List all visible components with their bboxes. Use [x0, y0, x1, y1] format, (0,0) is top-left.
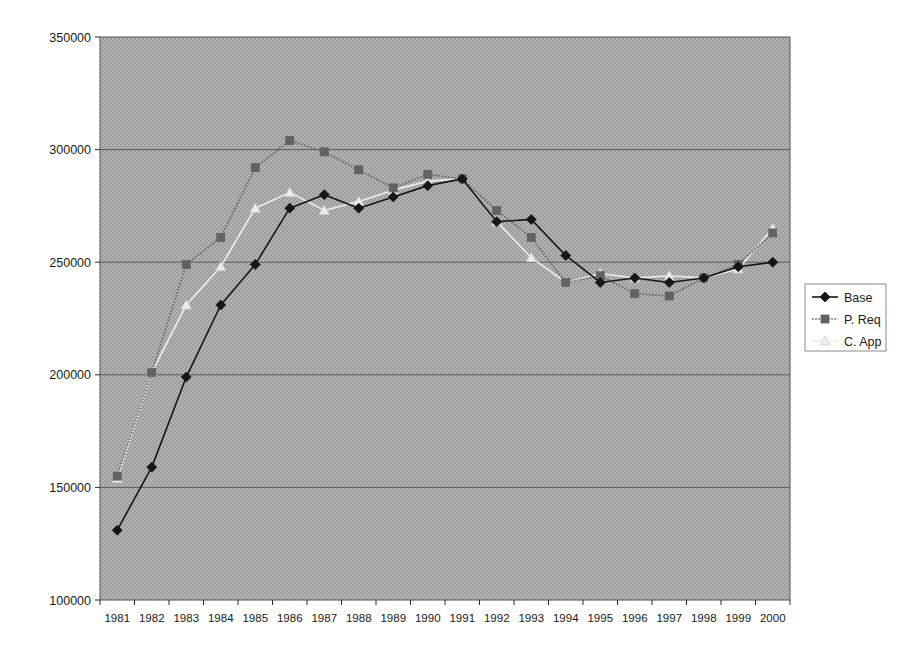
x-axis-tick-label: 1995	[587, 612, 613, 624]
x-axis-tick-label: 1990	[415, 612, 441, 624]
legend-label-p-req: P. Req	[844, 313, 881, 327]
y-axis-tick-label: 250000	[49, 256, 91, 270]
plot-background	[100, 37, 790, 600]
data-point-marker	[389, 184, 397, 192]
data-point-marker	[148, 369, 156, 377]
x-axis-tick-label: 1986	[277, 612, 303, 624]
x-axis-tick-label: 1987	[311, 612, 337, 624]
chart-container: 100000150000200000250000300000350000 198…	[0, 0, 912, 659]
x-axis-tick-label: 1985	[242, 612, 268, 624]
chart-legend: BaseP. ReqC. App	[805, 284, 886, 351]
data-point-marker	[631, 290, 639, 298]
x-axis-tick-label: 1994	[553, 612, 579, 624]
legend-label-c-app: C. App	[844, 335, 882, 349]
x-axis-tick-label: 1993	[518, 612, 544, 624]
data-point-marker	[286, 137, 294, 145]
plot-area	[100, 37, 790, 600]
y-axis-tick-label: 350000	[49, 31, 91, 45]
y-axis-tick-label: 300000	[49, 143, 91, 157]
y-axis-tick-label: 150000	[49, 481, 91, 495]
data-point-marker	[527, 233, 535, 241]
data-point-marker	[320, 148, 328, 156]
legend-label-base: Base	[844, 291, 873, 305]
data-point-marker	[821, 315, 829, 323]
data-point-marker	[769, 229, 777, 237]
data-point-marker	[562, 278, 570, 286]
data-point-marker	[493, 206, 501, 214]
x-axis-tick-label: 1998	[691, 612, 717, 624]
data-point-marker	[217, 233, 225, 241]
x-axis-tick-label: 1996	[622, 612, 648, 624]
x-axis-tick-label: 1992	[484, 612, 510, 624]
x-axis-tick-label: 1989	[380, 612, 406, 624]
line-chart: 100000150000200000250000300000350000 198…	[0, 0, 912, 659]
data-point-marker	[251, 164, 259, 172]
x-axis-tick-label: 1981	[104, 612, 130, 624]
data-point-marker	[355, 166, 363, 174]
x-axis-tick-label: 1984	[208, 612, 234, 624]
x-axis-tick-label: 1983	[173, 612, 199, 624]
data-point-marker	[665, 292, 673, 300]
x-axis-tick-label: 1997	[656, 612, 682, 624]
x-axis-tick-label: 1982	[139, 612, 165, 624]
y-axis-tick-label: 100000	[49, 594, 91, 608]
x-axis-tick-label: 2000	[760, 612, 786, 624]
x-axis-tick-label: 1999	[725, 612, 751, 624]
x-axis-tick-marks	[100, 600, 790, 605]
data-point-marker	[182, 260, 190, 268]
x-axis-tick-label: 1991	[449, 612, 475, 624]
data-point-marker	[113, 472, 121, 480]
x-axis-tick-label: 1988	[346, 612, 372, 624]
data-point-marker	[424, 170, 432, 178]
y-axis-tick-label: 200000	[49, 368, 91, 382]
